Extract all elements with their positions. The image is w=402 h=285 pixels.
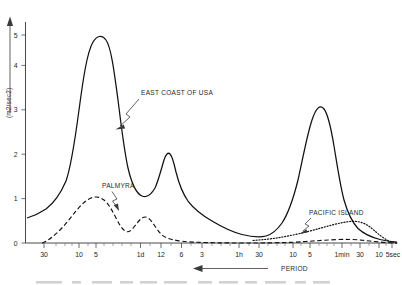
x-tick-label-30m: 30 — [255, 251, 263, 258]
series-palmyra — [42, 197, 397, 243]
x-tick-label-5d: 5 — [94, 251, 98, 258]
y-tick-label-2: 2 — [14, 151, 18, 158]
y-axis: 0 1 2 3 4 5 (m2/sec2) — [5, 17, 26, 247]
x-major-ticks — [44, 243, 392, 248]
x-tick-label-30s: 30 — [356, 251, 364, 258]
spectrum-figure: 0 1 2 3 4 5 (m2/sec2) — [0, 0, 402, 285]
cropped-caption-remnant — [36, 281, 330, 284]
y-tick-label-4: 4 — [14, 62, 18, 69]
annotation-leader-east-coast — [120, 99, 139, 126]
x-tick-label-1min: 1min — [335, 251, 350, 258]
annotation-leader-pacific-island — [303, 218, 311, 231]
x-tick-label-10m: 10 — [289, 251, 297, 258]
y-tick-label-0: 0 — [14, 240, 18, 247]
y-tick-label-1: 1 — [14, 195, 18, 202]
x-tick-label-5sec: 5sec — [386, 251, 401, 258]
x-tick-label-3h: 3 — [200, 251, 204, 258]
annotation-east-coast: EAST COAST OF USA — [116, 89, 214, 130]
x-axis-label: PERIOD — [281, 265, 308, 272]
x-tick-label-10s: 10 — [375, 251, 383, 258]
x-tick-label-10d: 10 — [75, 251, 83, 258]
x-tick-label-1h: 1h — [235, 251, 243, 258]
y-tick-label-3: 3 — [14, 106, 18, 113]
x-tick-label-1d: 1d — [137, 251, 145, 258]
x-axis: 30 10 5 1d 12 6 3 1h 30 10 5 1min 30 10 … — [26, 243, 401, 272]
y-axis-label: (m2/sec2) — [5, 88, 13, 118]
y-tick-label-5: 5 — [14, 32, 18, 39]
x-tick-label-6h: 6 — [180, 251, 184, 258]
annotation-arrowhead-palmyra — [114, 203, 119, 211]
annotation-label-east-coast: EAST COAST OF USA — [141, 89, 213, 96]
period-arrow-head-icon — [193, 265, 203, 272]
x-tick-label-5m: 5 — [308, 251, 312, 258]
annotation-label-pacific-island: PACIFIC ISLAND — [309, 209, 364, 216]
annotation-arrowhead-pacific-island — [300, 229, 308, 234]
period-direction-indicator: PERIOD — [193, 265, 308, 272]
x-tick-label-12h: 12 — [157, 251, 165, 258]
y-axis-arrow-head-icon — [7, 17, 13, 27]
annotation-palmyra: PALMYRA — [102, 182, 135, 211]
x-tick-label-30d: 30 — [40, 251, 48, 258]
annotation-label-palmyra: PALMYRA — [102, 182, 135, 189]
